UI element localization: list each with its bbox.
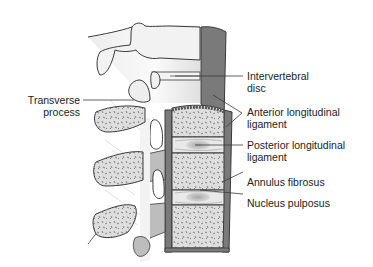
anterior-longitudinal-ligament <box>201 27 226 118</box>
vertebral-column-section <box>165 105 232 252</box>
label-anterior-longitudinal-ligament: Anterior longitudinal ligament <box>247 106 340 130</box>
label-posterior-longitudinal-ligament: Posterior longitudinal ligament <box>247 139 345 163</box>
nucleus-pulposus-shape <box>186 192 210 202</box>
label-transverse-process: Transverse process <box>20 94 80 118</box>
spine-diagram <box>0 0 373 267</box>
label-annulus-fibrosus: Annulus fibrosus <box>247 176 325 188</box>
upper-vertebra <box>88 23 200 103</box>
label-intervertebral-disc: Intervertebral disc <box>247 70 309 94</box>
transverse-process-shape <box>95 106 146 132</box>
posterior-elements <box>88 100 165 262</box>
label-nucleus-pulposus: Nucleus pulposus <box>247 197 330 209</box>
